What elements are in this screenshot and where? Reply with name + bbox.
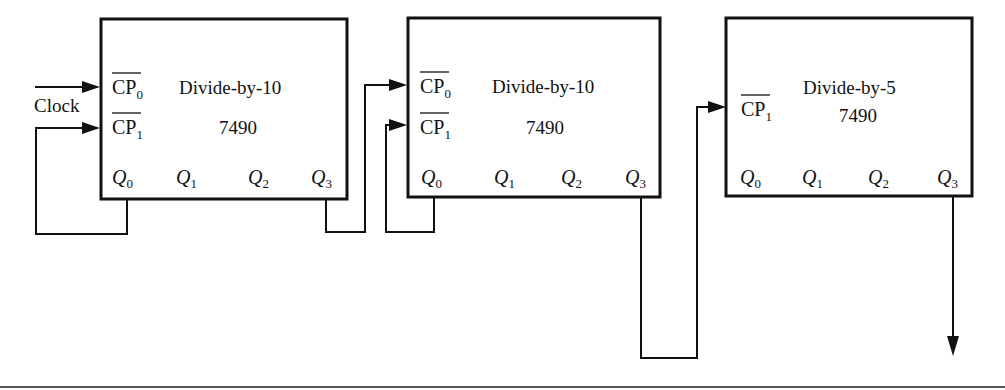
counter-1-part: 7490 [219, 117, 257, 138]
arrow-right-icon [708, 101, 726, 113]
clock-label: Clock [34, 95, 80, 116]
counter-1: CP0 CP1 Divide-by-10 7490 Q0 Q1 Q2 Q3 [101, 19, 347, 199]
counter-1-title: Divide-by-10 [179, 77, 281, 98]
arrow-right-icon [82, 122, 100, 134]
counter-2: CP0 CP1 Divide-by-10 7490 Q0 Q1 Q2 Q3 [408, 18, 660, 197]
counter-3-part: 7490 [839, 105, 877, 126]
arrow-right-icon [82, 81, 100, 93]
counter-diagram: Clock CP0 CP1 Divide-by-10 7490 Q0 Q1 Q2… [0, 0, 1005, 390]
arrow-down-icon [947, 336, 959, 356]
counter-2-box [408, 18, 660, 197]
arrow-right-icon [389, 79, 407, 91]
arrow-right-icon [389, 119, 407, 131]
counter-2-title: Divide-by-10 [492, 76, 594, 97]
counter-3: CP1 Divide-by-5 7490 Q0 Q1 Q2 Q3 [726, 18, 972, 196]
counter-2-part: 7490 [526, 117, 564, 138]
counter-3-title: Divide-by-5 [803, 77, 896, 98]
